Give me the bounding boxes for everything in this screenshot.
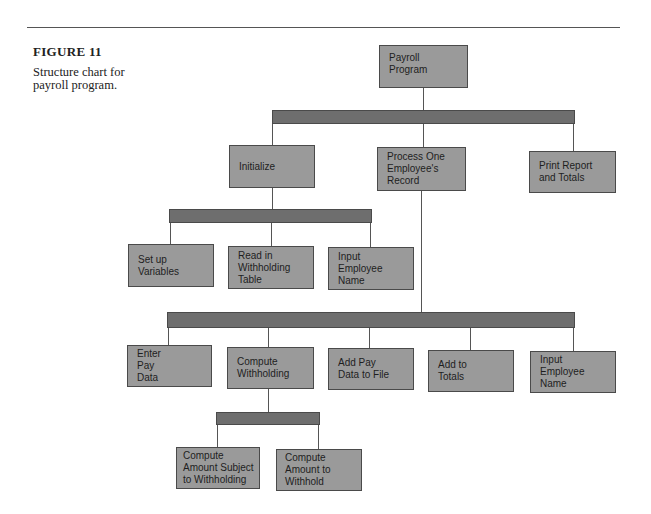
connector-input1 xyxy=(370,223,371,247)
level1-bar xyxy=(272,110,575,124)
print-report-box: Print Report and Totals xyxy=(529,151,616,193)
connector-readin xyxy=(271,223,272,246)
connector-setup xyxy=(170,223,171,244)
connector-enter xyxy=(168,328,169,345)
process-bar xyxy=(167,312,575,328)
connector-initialize xyxy=(272,124,273,145)
figure-label: FIGURE 11 xyxy=(33,44,102,60)
connector-amtwithhold xyxy=(318,425,319,449)
initialize-box: Initialize xyxy=(229,145,315,188)
add-pay-data-box: Add Pay Data to File xyxy=(328,348,414,390)
connector-addpay xyxy=(369,328,370,348)
read-withholding-box: Read in Withholding Table xyxy=(228,246,314,289)
connector-initialize-down xyxy=(272,187,273,209)
initialize-bar xyxy=(169,209,372,223)
compute-withholding-box: Compute Withholding xyxy=(227,347,314,389)
enter-pay-data-box: Enter Pay Data xyxy=(127,345,212,387)
add-to-totals-box: Add to Totals xyxy=(428,350,514,392)
root-box: Payroll Program xyxy=(379,45,468,88)
connector-print xyxy=(573,124,574,151)
connector-input2 xyxy=(573,328,574,351)
connector-amtsubject xyxy=(217,425,218,447)
connector-root xyxy=(423,87,424,110)
process-box: Process One Employee's Record xyxy=(377,147,466,191)
connector-compute-down xyxy=(268,388,269,412)
compute-amount-subject-box: Compute Amount Subject to Withholding xyxy=(176,447,260,489)
connector-process xyxy=(423,124,424,147)
connector-addtotals xyxy=(470,328,471,350)
figure-caption: Structure chart for payroll program. xyxy=(33,66,163,92)
connector-process-down xyxy=(421,190,422,312)
compute-amount-withhold-box: Compute Amount to Withhold xyxy=(276,449,362,491)
withholding-bar xyxy=(216,412,320,425)
input-employee-name-box-2: Input Employee Name xyxy=(530,351,616,393)
connector-compute xyxy=(268,328,269,347)
setup-variables-box: Set up Variables xyxy=(128,244,214,287)
input-employee-name-box-1: Input Employee Name xyxy=(328,247,414,290)
top-rule xyxy=(27,27,620,28)
